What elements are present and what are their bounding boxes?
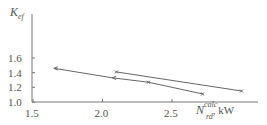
x-tick-label: 1.5 [25,107,39,119]
x-tick-label: 2.0 [95,107,109,119]
y-tick-label: 1.4 [8,67,22,79]
y-ticks: 1.01.21.41.6 [8,52,35,108]
y-axis-title-sub: ef [18,12,26,21]
y-axis-title: Kef [9,5,26,21]
x-axis-title: Ncalcrd, kW [195,100,235,121]
y-tick-label: 1.0 [8,96,22,108]
y-tick-label: 1.2 [8,81,22,93]
y-tick-label: 1.6 [8,52,22,64]
x-tick-label: 2.5 [164,107,178,119]
series-line [54,68,203,94]
data-series [54,67,243,96]
chart: 1.01.21.41.6 1.52.02.5 Kef Ncalcrd, kW [0,0,267,125]
x-axis-title-unit: , kW [213,104,235,116]
series-line [116,72,241,91]
